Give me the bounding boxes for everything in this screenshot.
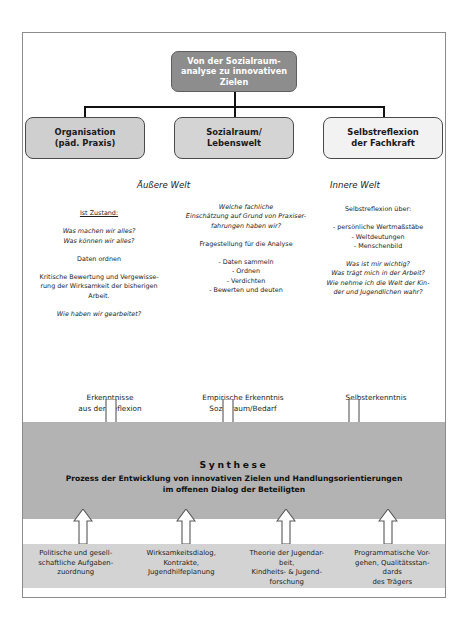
text-column-organisation: Ist Zustand:Was machen wir alles?Was kön… bbox=[25, 209, 173, 319]
text-line: Selbstreflexion über: bbox=[311, 205, 445, 214]
text-block-selbstreflexion-2: Was ist mir wichtig?Was trägt mich in de… bbox=[311, 260, 445, 297]
text-block-organisation-0: Ist Zustand: bbox=[25, 209, 173, 218]
text-block-sozialraum-0: Welche fachlicheEinschätzung auf Grund v… bbox=[171, 203, 321, 231]
connector-drop-middle bbox=[234, 106, 236, 117]
text-line: Was machen wir alles? bbox=[25, 227, 173, 236]
connector-stem bbox=[234, 92, 236, 107]
result-label-selbsterkenntnis: Selbsterkenntnis bbox=[311, 393, 441, 404]
category-box-selbstreflexion: Selbstreflexionder Fachkraft bbox=[323, 117, 443, 159]
text-line: Fragestellung für die Analyse bbox=[171, 240, 321, 249]
text-line: - Weltdeutungen bbox=[311, 233, 445, 242]
text-line: - Daten sammeln bbox=[171, 258, 321, 267]
text-column-selbstreflexion: Selbstreflexion über:- persönliche Wertm… bbox=[311, 205, 445, 297]
text-line: rung der Wirksamkeit der bisherigen bbox=[25, 282, 173, 291]
connector-drop-right bbox=[383, 106, 385, 117]
text-block-organisation-1: Was machen wir alles?Was können wir alle… bbox=[25, 227, 173, 246]
synthesis-band: Synthese Prozess der Entwicklung von inn… bbox=[23, 422, 445, 519]
text-line: der und Jugendlichen wahr? bbox=[311, 288, 445, 297]
text-line: Kritische Bewertung und Vergewisse- bbox=[25, 273, 173, 282]
text-line: - Verdichten bbox=[171, 277, 321, 286]
text-line: Ist Zustand: bbox=[25, 209, 173, 218]
foundation-box-programmatik: Programmatische Vor-gehen, Qualitätsstan… bbox=[340, 544, 446, 588]
text-line: - Ordnen bbox=[171, 267, 321, 276]
text-line: Welche fachliche bbox=[171, 203, 321, 212]
text-line: Was können wir alles? bbox=[25, 237, 173, 246]
text-column-sozialraum: Welche fachlicheEinschätzung auf Grund v… bbox=[171, 203, 321, 295]
foundation-row: Politische und gesell-schaftliche Aufgab… bbox=[23, 544, 445, 588]
arrow-up-icon bbox=[276, 509, 296, 545]
text-line: Daten ordnen bbox=[25, 255, 173, 264]
text-block-organisation-4: Wie haben wir gearbeitet? bbox=[25, 310, 173, 319]
connector-drop-left bbox=[84, 106, 86, 117]
text-line: Arbeit. bbox=[25, 292, 173, 301]
text-block-sozialraum-2: - Daten sammeln- Ordnen- Verdichten- Bew… bbox=[171, 258, 321, 295]
arrow-up-icon bbox=[378, 509, 398, 545]
text-block-selbstreflexion-0: Selbstreflexion über: bbox=[311, 205, 445, 214]
root-node-title: Von der Sozialraum-analyse zu innovative… bbox=[171, 51, 297, 92]
diagram-frame: Von der Sozialraum-analyse zu innovative… bbox=[22, 32, 446, 598]
category-box-sozialraum: Sozialraum/Lebenswelt bbox=[174, 117, 294, 159]
heading-innere-welt: Innere Welt bbox=[330, 180, 380, 190]
text-line: - persönliche Wertmaßstäbe bbox=[311, 223, 445, 232]
text-line: - Menschenbild bbox=[311, 242, 445, 251]
foundation-box-politik: Politische und gesell-schaftliche Aufgab… bbox=[23, 544, 129, 588]
text-line: fahrungen haben wir? bbox=[171, 222, 321, 231]
text-line: - Bewerten und deuten bbox=[171, 286, 321, 295]
synthesis-subtitle: Prozess der Entwicklung von innovativen … bbox=[23, 474, 445, 495]
text-line: Was trägt mich in der Arbeit? bbox=[311, 269, 445, 278]
synthesis-title: Synthese bbox=[23, 459, 445, 470]
heading-aeussere-welt: Äußere Welt bbox=[137, 180, 190, 190]
text-line: Wie nehme ich die Welt der Kin- bbox=[311, 279, 445, 288]
text-line: Wie haben wir gearbeitet? bbox=[25, 310, 173, 319]
arrow-up-icon bbox=[73, 509, 93, 545]
text-block-organisation-3: Kritische Bewertung und Vergewisse-rung … bbox=[25, 273, 173, 301]
text-block-organisation-2: Daten ordnen bbox=[25, 255, 173, 264]
text-block-sozialraum-1: Fragestellung für die Analyse bbox=[171, 240, 321, 249]
result-label-empirische-erkenntnis: Empirische ErkenntnisSozialraum/Bedarf bbox=[175, 393, 311, 414]
text-line: Einschätzung auf Grund von Praxiser- bbox=[171, 212, 321, 221]
text-block-selbstreflexion-1: - persönliche Wertmaßstäbe- Weltdeutunge… bbox=[311, 223, 445, 251]
category-box-organisation: Organisation(päd. Praxis) bbox=[25, 117, 145, 159]
text-line: Was ist mir wichtig? bbox=[311, 260, 445, 269]
arrow-up-icon bbox=[176, 509, 196, 545]
foundation-box-theorie: Theorie der Jugendar-beit,Kindheits- & J… bbox=[234, 544, 340, 588]
foundation-box-wirksamkeit: Wirksamkeitsdialog,Kontrakte,Jugendhilfe… bbox=[129, 544, 235, 588]
